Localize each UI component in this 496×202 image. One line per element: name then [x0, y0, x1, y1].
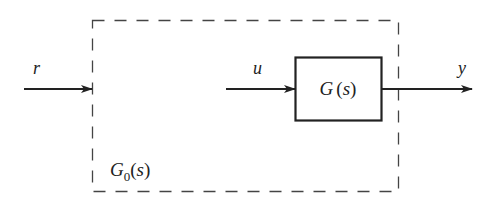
outer-var: s: [137, 159, 144, 180]
signal-label-y: y: [456, 58, 466, 78]
plant-paren-close: ): [350, 78, 356, 100]
plant-block-label: G(s): [320, 78, 357, 100]
signal-label-r: r: [33, 58, 41, 78]
block-diagram: r u G(s) y G0(s): [0, 0, 496, 202]
outer-name: G: [110, 159, 124, 180]
plant-name: G: [320, 78, 334, 99]
plant-var: s: [343, 78, 350, 99]
signal-label-u: u: [253, 58, 262, 78]
outer-block-label: G0(s): [110, 159, 150, 184]
outer-paren-close: ): [144, 159, 150, 181]
